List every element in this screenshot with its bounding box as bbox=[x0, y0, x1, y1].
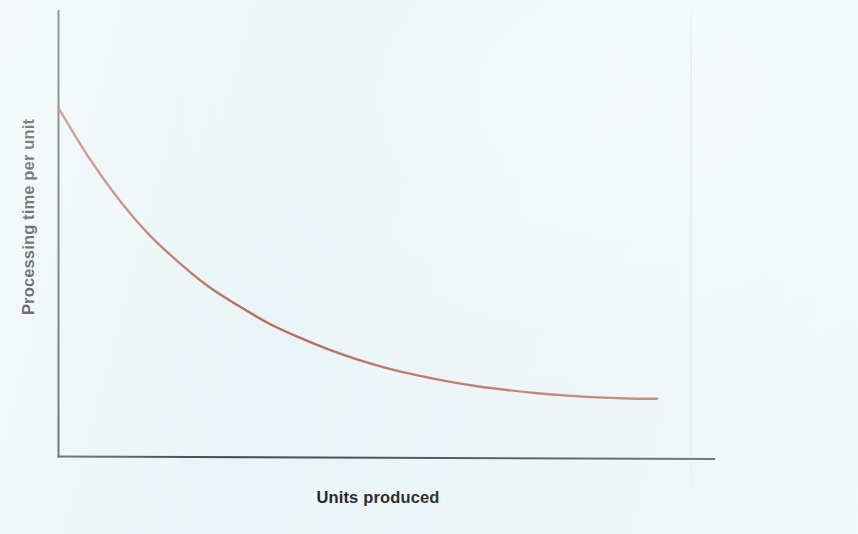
learning-curve-chart bbox=[0, 0, 858, 534]
processing-time-curve bbox=[59, 108, 658, 399]
y-axis-label: Processing time per unit bbox=[19, 119, 38, 315]
x-axis-label: Units produced bbox=[316, 488, 439, 507]
figure-canvas: Processing time per unit Units produced bbox=[0, 0, 858, 534]
x-axis-line bbox=[58, 457, 716, 460]
